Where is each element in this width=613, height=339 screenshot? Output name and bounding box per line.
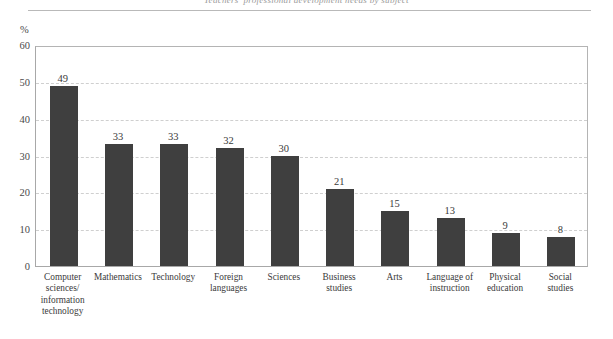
cat-label-line: Technology [151,272,195,282]
y-tick-60: 60 [0,41,30,52]
cat-label-line: Social [549,272,572,282]
cat-label-line: Mathematics [94,272,142,282]
bar-value-label: 15 [367,199,422,210]
bar-value-label: 32 [201,136,256,147]
bar [50,86,78,266]
x-category-label: Socialstudies [527,272,594,295]
bar-value-label: 49 [35,74,90,85]
cat-label-line: technology [42,306,83,316]
cat-label-line: Computer [44,272,81,282]
cat-label-line: Language of [426,272,473,282]
bar-value-label: 33 [90,132,145,143]
cat-label-line: languages [210,283,247,293]
bar [160,144,188,266]
y-tick-40: 40 [0,115,30,126]
bar [105,144,133,266]
bar [216,148,244,266]
gridline-50 [36,83,587,84]
bar [492,233,520,266]
bar-value-label: 9 [477,221,532,232]
cat-label-line: studies [326,283,352,293]
cat-label-line: instruction [430,283,470,293]
bar-value-label: 8 [533,225,588,236]
bar [326,189,354,266]
cat-label-line: Foreign [214,272,243,282]
cat-label-line: information [41,295,85,305]
cat-label-line: education [487,283,523,293]
y-axis-unit-label: % [20,24,29,35]
bar-value-label: 21 [312,177,367,188]
bar [271,156,299,267]
bar [547,237,575,266]
y-tick-30: 30 [0,152,30,163]
cat-label-line: sciences/ [46,283,80,293]
header-rule [28,10,591,11]
cat-label-line: Business [323,272,356,282]
y-tick-20: 20 [0,188,30,199]
bar-value-label: 30 [256,144,311,155]
bar [437,218,465,266]
cat-label-line: Arts [386,272,402,282]
chart-figure: Teachers' professional development needs… [0,0,613,339]
cat-label-line: studies [547,283,573,293]
y-tick-0: 0 [0,262,30,273]
y-tick-50: 50 [0,78,30,89]
y-tick-10: 10 [0,225,30,236]
cat-label-line: Sciences [268,272,301,282]
cat-label-line: Physical [489,272,521,282]
plot-area [35,46,588,267]
gridline-40 [36,120,587,121]
bar-value-label: 33 [146,132,201,143]
running-head: Teachers' professional development needs… [0,0,613,9]
bar [381,211,409,266]
bar-value-label: 13 [422,206,477,217]
